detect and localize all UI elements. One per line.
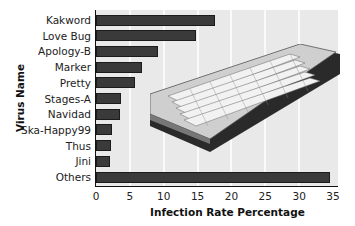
bar (96, 93, 121, 104)
keyboard-illustration (150, 44, 340, 154)
bar (96, 140, 111, 151)
bar (96, 77, 135, 88)
category-label: Jini (75, 155, 91, 167)
category-label: Marker (55, 61, 91, 73)
bar (96, 15, 215, 26)
category-label: Pretty (60, 77, 91, 89)
bar (96, 62, 142, 73)
x-tick-label: 0 (93, 190, 100, 202)
x-axis (95, 186, 338, 187)
bar (96, 30, 196, 41)
bar (96, 124, 112, 135)
y-axis (95, 10, 96, 187)
category-label: Thus (66, 140, 91, 152)
bar (96, 109, 120, 120)
category-label: Love Bug (42, 30, 91, 42)
bar (96, 156, 110, 167)
x-tick-label: 35 (326, 190, 339, 202)
x-axis-label: Infection Rate Percentage (150, 206, 305, 218)
x-tick-label: 15 (191, 190, 204, 202)
x-tick-label: 30 (292, 190, 305, 202)
x-tick-label: 20 (225, 190, 238, 202)
infection-rate-chart: KakwordLove BugApology-BMarkerPrettyStag… (0, 0, 355, 226)
x-tick-label: 10 (157, 190, 170, 202)
category-label: Navidad (48, 108, 91, 120)
bar (96, 46, 158, 57)
x-tick-label: 25 (259, 190, 272, 202)
bar (96, 172, 330, 183)
category-label: Ska-Happy99 (21, 124, 91, 136)
category-label: Stages-A (44, 93, 91, 105)
x-tick-label: 5 (127, 190, 134, 202)
category-label: Kakword (46, 14, 91, 26)
category-label: Apology-B (38, 45, 91, 57)
y-axis-label: Virus Name (14, 58, 26, 138)
category-label: Others (56, 171, 91, 183)
